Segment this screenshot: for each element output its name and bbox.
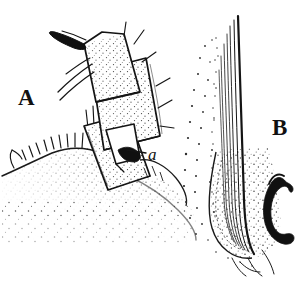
callout-a-label: a — [148, 146, 157, 163]
figure-b-label: B — [272, 116, 288, 139]
figure-a-label: A — [18, 86, 35, 109]
illustration-plate: A B a — [0, 0, 301, 289]
